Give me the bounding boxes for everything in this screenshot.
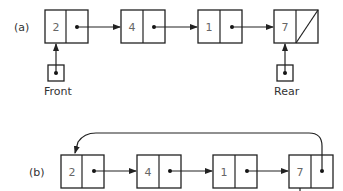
node-value: 2 — [69, 166, 76, 179]
part-a-label: (a) — [14, 21, 29, 34]
circular-pointer-arrow — [75, 133, 322, 171]
node-value: 1 — [206, 21, 213, 34]
part-b-label: (b) — [29, 166, 45, 179]
node-b-4: 7 — [289, 155, 333, 188]
part-b: (b) 2 4 1 7 — [29, 133, 333, 191]
rear-pointer: Rear — [274, 44, 300, 98]
node-value: 7 — [297, 166, 304, 179]
node-a-4: 7 — [274, 10, 318, 43]
front-label: Front — [44, 85, 73, 98]
part-a: (a) 2 4 1 7 — [14, 10, 318, 98]
node-value: 2 — [53, 21, 60, 34]
front-pointer: Front — [44, 44, 73, 98]
node-value: 4 — [129, 21, 136, 34]
node-value: 7 — [282, 21, 289, 34]
node-value: 4 — [145, 166, 152, 179]
node-value: 1 — [221, 166, 228, 179]
queue-diagram: (a) 2 4 1 7 — [0, 0, 343, 191]
rear-label: Rear — [274, 85, 300, 98]
